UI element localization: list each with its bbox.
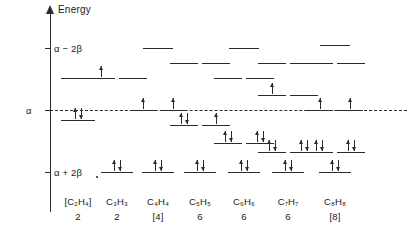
spin-up-arrow-icon [283,160,287,171]
spin-up-arrow-icon [112,160,116,171]
spin-down-arrow-icon [273,140,277,151]
electron-spin-group [239,160,249,171]
electron-spin-group [348,98,352,109]
electron-count-label: [8] [324,211,346,222]
orbital-level [142,172,174,173]
spin-down-arrow-icon [201,160,205,171]
orbital-level [119,78,147,79]
electron-spin-group [153,160,163,171]
electron-count-label: 6 [189,211,211,222]
orbital-level [101,172,133,173]
electron-spin-group [179,113,189,124]
orbital-level [228,172,260,173]
orbital-level [337,63,365,64]
orbital-level [229,48,259,49]
spin-up-arrow-icon [314,140,318,151]
spin-up-arrow-icon [318,98,322,109]
orbital-level [143,48,173,49]
electron-spin-group [141,98,145,109]
orbital-level [290,95,318,96]
orbital-level [258,152,286,153]
orbital-level [170,125,198,126]
electron-spin-group [270,83,274,94]
molecule-formula: C₃H₃ [106,196,128,207]
electron-spin-group [299,140,309,151]
orbital-level [202,125,230,126]
spin-down-arrow-icon [352,140,356,151]
y-axis-line [50,12,51,212]
orbital-level [305,63,333,64]
orbital-level [87,78,115,79]
spin-down-arrow-icon [159,160,163,171]
y-axis-title: Energy [58,4,91,15]
spin-up-arrow-icon [270,83,274,94]
orbital-level [160,110,186,111]
spin-up-arrow-icon [255,131,259,142]
orbital-level [184,172,216,173]
spin-up-arrow-icon [153,160,157,171]
spin-up-arrow-icon [179,113,183,124]
column-label: [C₂H₄]2 [64,196,91,222]
electron-spin-group [171,98,175,109]
molecule-formula: C₆H₆ [233,196,255,207]
column-label: C₅H₅6 [189,196,211,222]
orbital-level [337,152,365,153]
orbital-level [319,172,351,173]
molecule-formula: C₇H₇ [278,196,299,207]
spin-up-arrow-icon [299,140,303,151]
orbital-level [258,63,286,64]
spin-up-arrow-icon [346,140,350,151]
electron-spin-group [330,160,340,171]
spin-up-arrow-icon [267,140,271,151]
electron-spin-group [214,113,218,124]
spin-up-arrow-icon [99,66,103,77]
molecule-formula: [C₂H₄] [64,196,91,207]
electron-count-label: 2 [64,211,91,222]
orbital-level [61,120,95,121]
orbital-level [320,45,350,46]
spin-down-arrow-icon [320,140,324,151]
orbital-level [214,143,242,144]
energy-level-diagram: Energy α − 2βαα + 2β[C₂H₄]2C₃H₃2C₄H₄[4]C… [0,0,411,237]
electron-count-label: [4] [147,211,169,222]
spin-up-arrow-icon [195,160,199,171]
orbital-level [214,78,242,79]
y-axis-tick [45,172,51,173]
orbital-level [337,110,363,111]
electron-spin-group [255,131,265,142]
electron-count-label: 2 [106,211,128,222]
electron-spin-group [223,131,233,142]
column-label: C₇H₇6 [278,196,299,222]
electron-count-label: 6 [278,211,299,222]
y-axis-tick-label: α [26,105,32,116]
y-axis-tick-label: α − 2β [54,43,82,54]
electron-spin-group [346,140,356,151]
electron-spin-group [318,98,322,109]
y-axis-tick [45,48,51,49]
electron-spin-group [112,160,122,171]
orbital-level [246,143,274,144]
spin-down-arrow-icon [118,160,122,171]
y-axis-arrow-icon [46,5,54,14]
spin-up-arrow-icon [348,98,352,109]
orbital-level [202,63,230,64]
column-label: C₄H₄[4] [147,196,169,222]
spin-up-arrow-icon [223,131,227,142]
electron-spin-group [99,66,103,77]
column-label: C₈H₈[8] [324,196,346,222]
spin-up-arrow-icon [171,98,175,109]
orbital-level [305,152,333,153]
spin-down-arrow-icon [261,131,265,142]
spin-up-arrow-icon [239,160,243,171]
molecule-formula: C₄H₄ [147,196,169,207]
y-axis-tick-label: α + 2β [54,167,82,178]
orbital-level [130,110,156,111]
column-label: C₆H₆6 [233,196,255,222]
orbital-level [246,78,274,79]
orbital-level [258,95,286,96]
stray-mark [96,176,98,178]
electron-count-label: 6 [233,211,255,222]
spin-up-arrow-icon [141,98,145,109]
orbital-level [272,172,304,173]
spin-down-arrow-icon [229,131,233,142]
